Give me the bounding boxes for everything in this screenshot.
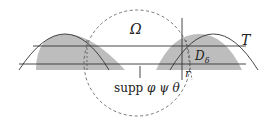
delta-subscript: δ: [205, 56, 210, 65]
diagram-canvas: Ω T Dδ r supp φ ψ θ: [0, 0, 273, 124]
supp-label: supp φ ψ θ: [114, 81, 181, 95]
d-label: D: [194, 49, 205, 63]
diagram-svg: Ω T Dδ r supp φ ψ θ: [0, 0, 273, 124]
supp-functions: φ ψ θ: [147, 81, 180, 95]
omega-label: Ω: [129, 21, 142, 37]
left-shaded-bump: [36, 34, 125, 70]
t-label: T: [241, 32, 252, 48]
supp-text: supp: [114, 81, 144, 95]
r-label: r: [185, 67, 191, 80]
